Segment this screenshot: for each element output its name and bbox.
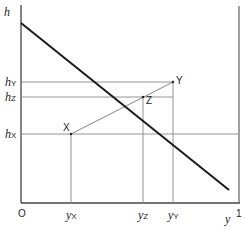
- point-z: [142, 96, 144, 98]
- vertical-axis-label: h: [4, 6, 10, 18]
- h-x-sub: X: [11, 131, 16, 140]
- h-y-label: hY: [5, 76, 16, 88]
- point-x-label: X: [63, 123, 70, 133]
- origin-label: O: [18, 209, 26, 219]
- diagram-canvas: [0, 0, 245, 229]
- h-z-label: hZ: [5, 91, 16, 103]
- y-x-label: yX: [66, 209, 77, 221]
- y-z-sub: Z: [143, 212, 148, 221]
- y-y-sub: Y: [173, 212, 178, 221]
- h-y-sub: Y: [11, 79, 16, 88]
- point-y: [172, 81, 174, 83]
- point-z-label: Z: [146, 96, 152, 106]
- horizontal-axis-label: y: [225, 213, 230, 225]
- y-z-label: yZ: [138, 209, 148, 221]
- x-max-label: 1: [236, 209, 242, 219]
- y-x-sub: X: [71, 212, 76, 221]
- tie-line-x-y: [71, 82, 173, 134]
- equilibrium-line: [21, 23, 229, 190]
- h-x-label: hX: [5, 128, 16, 140]
- point-y-label: Y: [176, 76, 183, 86]
- y-y-label: yY: [168, 209, 179, 221]
- h-z-sub: Z: [11, 94, 16, 103]
- point-x: [70, 133, 72, 135]
